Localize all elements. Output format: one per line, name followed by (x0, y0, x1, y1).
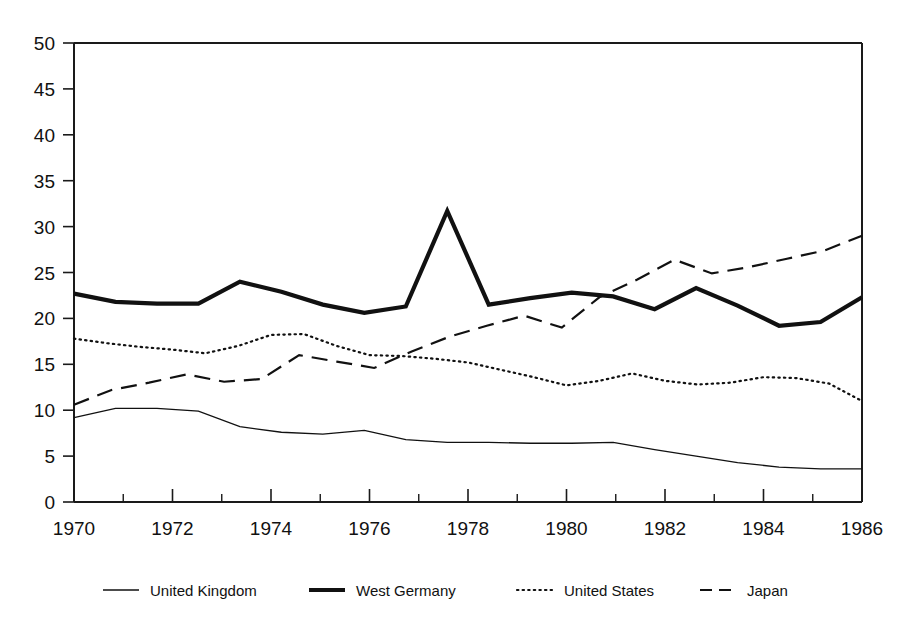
x-tick-label: 1986 (841, 518, 883, 539)
y-tick-label: 5 (44, 446, 55, 467)
y-tick-label: 20 (34, 308, 55, 329)
legend-label-japan: Japan (747, 582, 788, 599)
y-axis-ticks: 05101520253035404550 (34, 33, 74, 513)
y-tick-label: 15 (34, 354, 55, 375)
x-tick-label: 1976 (348, 518, 390, 539)
x-tick-label: 1984 (742, 518, 785, 539)
line-chart: 05101520253035404550 1970197219741976197… (0, 0, 919, 635)
y-tick-label: 45 (34, 79, 55, 100)
y-tick-label: 35 (34, 171, 55, 192)
x-tick-label: 1972 (151, 518, 193, 539)
legend-label-united-kingdom: United Kingdom (150, 582, 257, 599)
y-tick-label: 0 (44, 492, 55, 513)
y-tick-label: 40 (34, 125, 55, 146)
chart-container: 05101520253035404550 1970197219741976197… (0, 0, 919, 635)
y-tick-label: 30 (34, 217, 55, 238)
y-tick-label: 25 (34, 263, 55, 284)
series-line-west-germany (74, 211, 862, 326)
series-line-united-states (74, 334, 862, 401)
x-tick-label: 1970 (53, 518, 95, 539)
legend-label-west-germany: West Germany (356, 582, 456, 599)
x-tick-label: 1982 (644, 518, 686, 539)
x-axis-ticks: 197019721974197619781980198219841986 (53, 489, 883, 539)
x-tick-label: 1980 (545, 518, 587, 539)
legend-label-united-states: United States (564, 582, 654, 599)
data-series-group (74, 211, 862, 469)
x-tick-label: 1978 (447, 518, 489, 539)
y-tick-label: 10 (34, 400, 55, 421)
x-tick-label: 1974 (250, 518, 293, 539)
y-tick-label: 50 (34, 33, 55, 54)
chart-legend: United KingdomWest GermanyUnited StatesJ… (103, 582, 788, 599)
series-line-united-kingdom (74, 408, 862, 469)
plot-frame (74, 43, 862, 502)
